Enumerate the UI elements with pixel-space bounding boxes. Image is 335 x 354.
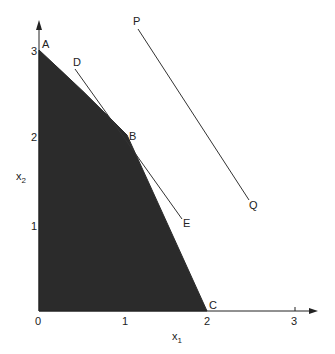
point-label-q: Q [249, 199, 258, 211]
point-label-e: E [183, 217, 190, 229]
x-tick-label-0: 0 [35, 315, 41, 327]
point-label-d: D [73, 56, 81, 68]
feasible-region [39, 50, 207, 311]
point-label-p: P [133, 15, 140, 27]
lp-diagram: 0 1 2 3 1 2 3 x1 x2 A B C D E P Q [0, 0, 335, 354]
y-axis-label: x2 [16, 170, 27, 185]
y-tick-label-2: 2 [31, 131, 37, 143]
point-label-c: C [209, 299, 217, 311]
y-tick-label-1: 1 [31, 220, 37, 232]
y-axis-arrow-icon [36, 20, 42, 30]
y-tick-label-3: 3 [31, 45, 37, 57]
x-axis-label: x1 [172, 330, 183, 345]
x-axis-arrow-icon [309, 308, 318, 314]
point-label-b: B [129, 130, 136, 142]
x-tick-label-3: 3 [291, 315, 297, 327]
point-label-a: A [42, 38, 50, 50]
line-pq [138, 29, 249, 200]
x-tick-label-1: 1 [122, 315, 128, 327]
x-tick-label-2: 2 [204, 315, 210, 327]
